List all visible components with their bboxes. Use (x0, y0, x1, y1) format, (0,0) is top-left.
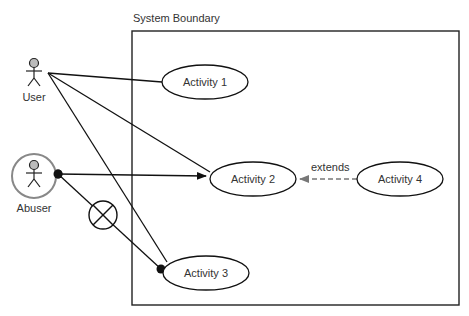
actor-label: User (22, 91, 46, 103)
actor-label: Abuser (17, 202, 52, 214)
actor-head-icon (30, 161, 39, 170)
system-boundary-label: System Boundary (133, 12, 220, 24)
use-case-label: Activity 2 (231, 173, 275, 185)
use-case-label: Activity 3 (184, 267, 228, 279)
crossed-circle-icon (89, 201, 117, 229)
use-case-activity-2[interactable]: Activity 2 (210, 162, 296, 196)
use-case-activity-1[interactable]: Activity 1 (162, 65, 248, 99)
use-case-diagram: System Boundary extends Activity 1 Activ… (0, 0, 469, 316)
extends-relation: extends (300, 161, 357, 179)
use-case-label: Activity 4 (378, 173, 422, 185)
use-case-activity-4[interactable]: Activity 4 (357, 162, 443, 196)
actor-head-icon (30, 59, 39, 68)
abuser-edge-origin-dot (54, 170, 63, 179)
edge-user-activity3 (48, 73, 167, 262)
edge-user-activity1 (48, 73, 162, 82)
use-case-activity-3[interactable]: Activity 3 (163, 256, 249, 290)
actor-user[interactable]: User (22, 59, 46, 104)
use-case-label: Activity 1 (183, 76, 227, 88)
actor-abuser[interactable]: Abuser (12, 154, 56, 214)
extends-label: extends (311, 161, 350, 173)
user-associations (48, 73, 210, 262)
